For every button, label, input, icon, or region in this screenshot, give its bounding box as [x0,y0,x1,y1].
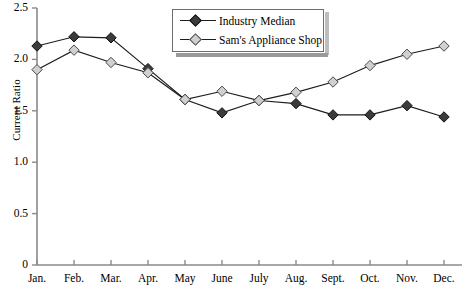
data-point-marker [365,110,375,120]
data-point-marker [328,77,338,87]
data-point-marker [254,95,264,105]
data-point-marker [365,60,375,70]
legend-item-industry-median: Industry Median [179,12,295,30]
data-point-marker [291,87,301,97]
data-point-marker [328,110,338,120]
data-point-marker [69,32,79,42]
data-point-marker [439,112,449,122]
legend-item-label: Sam's Appliance Shop [217,34,322,46]
data-point-marker [32,41,42,51]
legend: Industry Median Sam's Appliance Shop [172,9,324,52]
legend-item-label: Industry Median [217,15,295,27]
data-point-marker [402,100,412,110]
legend-item-sams-appliance-shop: Sam's Appliance Shop [179,31,322,49]
data-point-marker [69,45,79,55]
data-point-marker [217,86,227,96]
current-ratio-line-chart: Current Ratio 00.51.01.52.02.5 Jan.Feb.M… [0,0,470,306]
data-point-marker [291,98,301,108]
data-point-marker [106,57,116,67]
filled-diamond-icon [179,13,217,29]
data-point-marker [32,64,42,74]
open-diamond-icon [179,32,217,48]
data-point-marker [439,41,449,51]
data-point-marker [402,49,412,59]
data-point-marker [217,108,227,118]
